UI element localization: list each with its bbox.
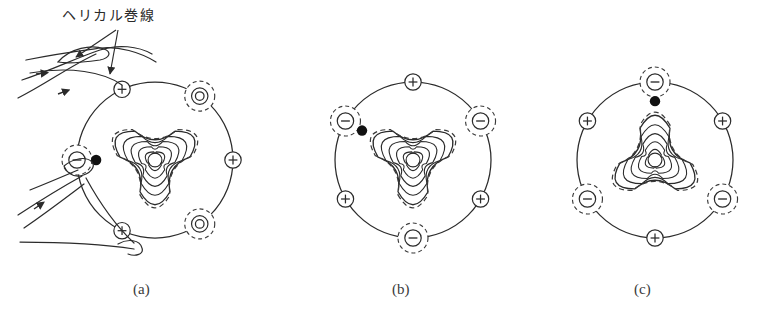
conductor-marker-positive[interactable]	[647, 230, 663, 246]
conductor-marker-negative[interactable]	[185, 209, 215, 239]
flux-surface-contour	[131, 142, 179, 187]
current-direction-arrow	[58, 91, 66, 94]
magnetic-axis-contour	[406, 153, 420, 167]
helical-winding-label: ヘリカル巻線	[62, 4, 155, 24]
helical-winding-strand	[20, 242, 134, 249]
conductor-marker-positive[interactable]	[114, 81, 130, 97]
current-direction-arrow	[36, 73, 45, 74]
leader-arrow-to-inner-winding	[110, 30, 118, 74]
panels-layer	[62, 67, 738, 253]
conductor-marker-negative[interactable]	[185, 81, 215, 111]
helical-winding-strand	[30, 170, 78, 190]
conductor-marker-negative[interactable]	[708, 184, 738, 214]
panel-b	[330, 74, 495, 253]
helical-winding-strand	[26, 48, 156, 62]
figure-canvas	[0, 0, 773, 329]
panel-c	[572, 67, 737, 246]
flux-surfaces	[115, 131, 195, 205]
conductor-marker-negative[interactable]	[466, 106, 496, 136]
panel-caption-b: (b)	[392, 281, 410, 298]
annotation-leader-lines	[76, 30, 118, 74]
conductor-marker-negative[interactable]	[330, 106, 360, 136]
flux-surface-contour	[631, 134, 679, 179]
separatrix-x-point-dot	[650, 96, 660, 106]
conductor-marker-positive[interactable]	[225, 152, 241, 168]
helical-winding-strand	[18, 54, 96, 98]
conductor-circle	[192, 88, 208, 104]
conductor-circle	[192, 216, 208, 232]
vessel-boundary-circle	[335, 82, 491, 238]
figure-root: ヘリカル巻線 (a) (b) (c)	[0, 0, 773, 329]
magnetic-axis-contour	[148, 153, 162, 167]
flux-surfaces	[615, 115, 695, 189]
separatrix-x-point-dot	[357, 125, 367, 135]
conductor-marker-negative[interactable]	[572, 184, 602, 214]
conductor-marker-positive[interactable]	[337, 191, 353, 207]
flux-surface-contour	[389, 142, 437, 187]
flux-surfaces	[373, 131, 453, 205]
conductor-marker-positive[interactable]	[405, 74, 421, 90]
panel-caption-c: (c)	[634, 281, 651, 298]
conductor-marker-negative[interactable]	[640, 67, 670, 97]
leader-arrow-to-outer-winding	[76, 30, 116, 57]
magnetic-axis-contour	[648, 153, 662, 167]
conductor-marker-positive[interactable]	[472, 191, 488, 207]
conductor-marker-negative[interactable]	[398, 223, 428, 253]
panel-caption-a: (a)	[133, 281, 150, 298]
conductor-marker-positive[interactable]	[579, 113, 595, 129]
conductor-marker-positive[interactable]	[714, 113, 730, 129]
